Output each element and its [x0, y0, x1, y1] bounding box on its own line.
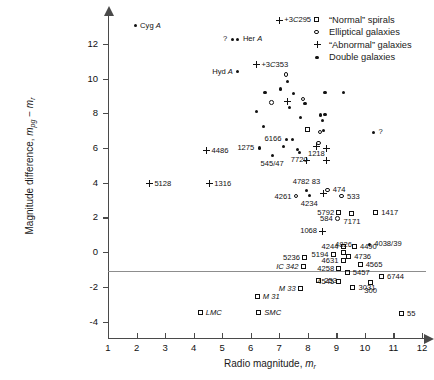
data-point	[318, 130, 323, 135]
x-tick-label: 10	[353, 342, 377, 353]
data-point	[288, 106, 291, 109]
data-point-label: 4826	[335, 241, 352, 249]
legend-marker-icon	[314, 30, 319, 35]
data-point	[276, 17, 283, 24]
data-point	[146, 180, 153, 187]
data-point	[345, 270, 350, 275]
x-tick-label: 2	[125, 342, 149, 353]
y-axis-arrow-icon	[104, 6, 114, 16]
data-point-label: 4038/39	[374, 241, 401, 249]
x-tick	[279, 333, 280, 339]
data-point	[373, 210, 378, 215]
data-point	[302, 255, 307, 260]
scatter-plot: -4-2024681012 123456789101112 Magnitude …	[0, 0, 434, 380]
data-point-label: 300	[364, 287, 377, 295]
data-point	[198, 310, 203, 315]
legend-label: Double galaxies	[329, 52, 395, 62]
data-point-label: Her A	[243, 36, 262, 44]
data-point	[301, 97, 306, 102]
data-point	[308, 194, 311, 197]
data-point-label: Cyg A	[140, 22, 161, 30]
data-point	[346, 254, 351, 259]
legend-label: “Abnormal” galaxies	[329, 40, 412, 50]
y-tick	[103, 44, 109, 45]
data-point	[358, 262, 363, 267]
x-tick	[251, 333, 252, 339]
data-point-label: LMC	[206, 309, 222, 317]
y-axis-title: Magnitude difference, mpg − mr	[24, 51, 36, 281]
data-point	[305, 189, 308, 192]
legend-item: “Normal” spirals	[316, 14, 412, 26]
data-point	[284, 72, 289, 77]
data-point-label: 1417	[381, 209, 398, 217]
data-point	[379, 274, 384, 279]
data-point	[298, 286, 303, 291]
y-tick	[103, 79, 109, 80]
data-point	[291, 138, 294, 141]
legend: “Normal” spiralsElliptical galaxies“Abno…	[316, 14, 412, 64]
data-point	[203, 147, 210, 154]
data-point	[372, 131, 375, 134]
data-point-label: 545/47	[261, 160, 284, 168]
data-point-label: 7720	[291, 156, 308, 164]
x-tick-label: 4	[182, 342, 206, 353]
x-tick-label: 12	[410, 342, 434, 353]
y-tick-label: 0	[74, 246, 98, 257]
data-point	[298, 151, 301, 154]
data-point	[335, 216, 340, 221]
data-point	[336, 279, 341, 284]
data-point	[269, 100, 274, 105]
zero-reference-line	[108, 271, 426, 272]
data-point	[399, 311, 404, 316]
x-tick	[165, 333, 166, 339]
x-tick	[365, 333, 366, 339]
data-point-label: 4782 83	[293, 179, 320, 187]
y-tick	[103, 322, 109, 323]
data-point	[206, 180, 213, 187]
data-point-label: 55	[407, 310, 415, 318]
data-point	[341, 250, 346, 255]
legend-item: Double galaxies	[316, 51, 412, 63]
data-point-label: +3C295	[284, 17, 311, 25]
data-point	[279, 87, 282, 90]
data-point	[305, 127, 310, 132]
data-point	[321, 119, 324, 122]
y-tick	[103, 287, 109, 288]
data-point	[349, 211, 354, 216]
data-point	[236, 38, 239, 41]
data-point-label: 474	[333, 187, 346, 195]
data-point	[236, 70, 239, 73]
data-point	[263, 91, 266, 94]
data-point	[322, 129, 325, 132]
y-tick-label: 10	[74, 73, 98, 84]
data-point	[320, 190, 327, 197]
data-point	[319, 228, 326, 235]
x-tick-label: 7	[267, 342, 291, 353]
data-point-label: ?	[223, 36, 227, 44]
y-tick	[103, 217, 109, 218]
x-axis-line	[108, 338, 426, 339]
data-point-label: 4258	[317, 265, 334, 273]
data-point	[256, 310, 261, 315]
data-point	[134, 24, 137, 27]
data-point	[231, 38, 234, 41]
data-point	[319, 113, 322, 116]
data-point-label: 4234	[301, 200, 318, 208]
data-point-label: 5236	[283, 254, 300, 262]
data-point	[284, 98, 291, 105]
data-point-label: 533	[347, 193, 360, 201]
data-point-label: 5128	[154, 180, 171, 188]
data-point-label: M 31	[263, 293, 280, 301]
data-point	[323, 91, 326, 94]
legend-item: “Abnormal” galaxies	[316, 39, 412, 51]
data-point	[271, 154, 274, 157]
y-tick-label: 12	[74, 38, 98, 49]
legend-marker-icon	[314, 17, 319, 22]
data-point-label: 1068	[300, 227, 317, 235]
data-point-label: +3C353	[261, 61, 288, 69]
x-tick	[393, 333, 394, 339]
x-tick-label: 3	[153, 342, 177, 353]
data-point	[255, 294, 260, 299]
legend-label: Elliptical galaxies	[329, 27, 400, 37]
data-point-label: 4490	[360, 243, 377, 251]
